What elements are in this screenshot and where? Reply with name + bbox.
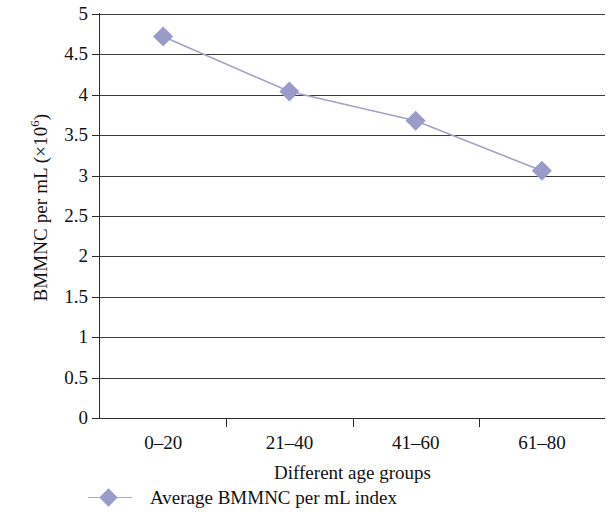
line-chart: BMMNC per mL (×106) 54.543.532.521.510.5… xyxy=(0,0,613,515)
y-axis-tick-label: 1.5 xyxy=(0,287,88,306)
x-axis-tick-label: 0–20 xyxy=(100,432,226,454)
y-axis-tick-mark xyxy=(92,378,100,379)
gridline xyxy=(100,216,605,217)
gridline xyxy=(100,135,605,136)
y-axis-tick-label: 3 xyxy=(0,166,88,185)
y-axis-tick-label: 2.5 xyxy=(0,206,88,225)
gridline xyxy=(100,297,605,298)
y-axis-tick-label: 4 xyxy=(0,85,88,104)
y-axis-tick-label: 3.5 xyxy=(0,125,88,144)
x-axis-tick-label: 21–40 xyxy=(226,432,352,454)
x-axis-tick-mark xyxy=(479,418,480,427)
y-axis-tick-label: 0.5 xyxy=(0,368,88,387)
y-axis-tick-labels: 54.543.532.521.510.50 xyxy=(0,0,88,430)
x-axis-tick-label: 41–60 xyxy=(353,432,479,454)
y-axis-tick-mark xyxy=(92,256,100,257)
y-axis-tick-label: 5 xyxy=(0,4,88,23)
y-axis-tick-label: 4.5 xyxy=(0,44,88,63)
x-axis-tick-mark xyxy=(226,418,227,427)
y-axis-tick-mark xyxy=(92,54,100,55)
y-axis-tick-mark xyxy=(92,176,100,177)
legend: Average BMMNC per mL index xyxy=(86,487,397,509)
gridline xyxy=(100,14,605,15)
y-axis-tick-label: 0 xyxy=(0,408,88,427)
gridline xyxy=(100,256,605,257)
plot-area xyxy=(100,14,605,418)
gridline xyxy=(100,176,605,177)
gridline xyxy=(100,337,605,338)
y-axis-tick-mark xyxy=(92,297,100,298)
gridline xyxy=(100,95,605,96)
gridline xyxy=(100,378,605,379)
gridline xyxy=(100,54,605,55)
legend-label: Average BMMNC per mL index xyxy=(150,487,397,509)
x-axis-title: Different age groups xyxy=(100,462,605,484)
y-axis-tick-label: 2 xyxy=(0,246,88,265)
y-axis-tick-mark xyxy=(92,135,100,136)
y-axis-tick-mark xyxy=(92,337,100,338)
y-axis-tick-mark xyxy=(92,14,100,15)
y-axis-tick-label: 1 xyxy=(0,327,88,346)
x-axis-tick-label: 61–80 xyxy=(479,432,605,454)
y-axis-tick-mark xyxy=(92,95,100,96)
legend-diamond-icon xyxy=(86,488,134,508)
legend-marker xyxy=(99,488,117,506)
y-axis-tick-mark xyxy=(92,418,100,419)
y-axis-tick-mark xyxy=(92,216,100,217)
x-axis-tick-mark xyxy=(353,418,354,427)
